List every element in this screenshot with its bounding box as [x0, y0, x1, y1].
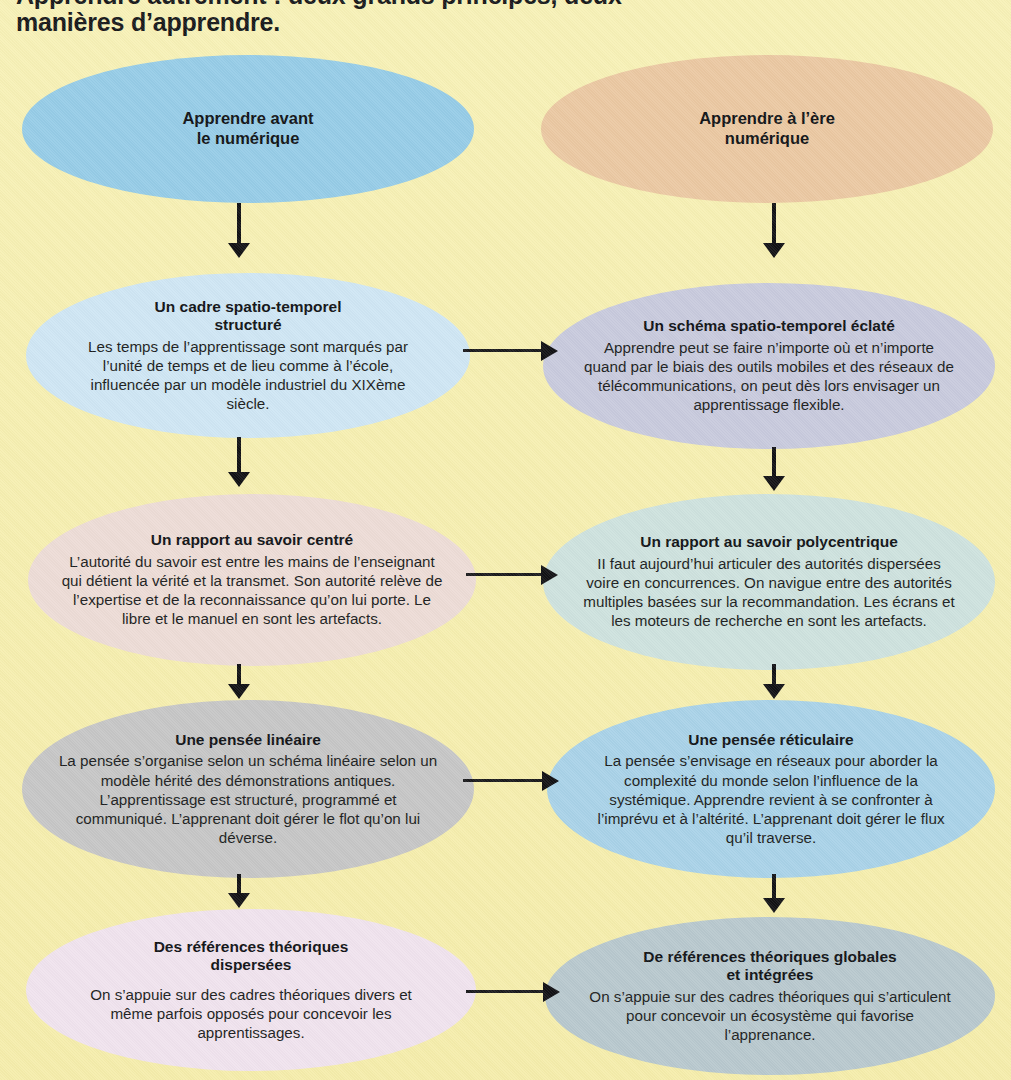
node-right-4-title-line2: et intégrées	[643, 966, 896, 985]
connector-left-row2-to-row3-arrow	[228, 684, 250, 699]
connector-row4-horizontal-arrow	[543, 982, 560, 1002]
node-right-2-body: II faut aujourd’hui articuler des autori…	[579, 554, 959, 631]
node-left-header-title-line2: le numérique	[182, 129, 313, 149]
node-right-header[interactable]: Apprendre à l’ère numérique	[541, 55, 993, 203]
node-left-3-title-line1: Une pensée linéaire	[175, 731, 321, 750]
node-left-3[interactable]: Une pensée linéaire La pensée s’organise…	[22, 700, 474, 878]
node-left-header-title-line1: Apprendre avant	[182, 109, 313, 129]
node-right-1[interactable]: Un schéma spatio-temporel éclaté Apprend…	[543, 283, 995, 449]
connector-left-row3-to-row4-arrow	[228, 893, 250, 908]
node-right-4-title-line1: De références théoriques globales	[643, 948, 896, 967]
node-right-header-title-line1: Apprendre à l’ère	[699, 109, 835, 129]
node-left-1[interactable]: Un cadre spatio-temporel structuré Les t…	[26, 273, 470, 438]
node-left-1-title-line2: structuré	[155, 316, 342, 335]
page-heading: Apprendre autrement : deux grands princi…	[0, 0, 1011, 46]
node-left-2[interactable]: Un rapport au savoir centré L’autorité d…	[28, 494, 476, 666]
connector-row3-horizontal-arrow	[542, 771, 559, 791]
node-right-2[interactable]: Un rapport au savoir polycentrique II fa…	[543, 494, 995, 670]
connector-left-row1-to-row2-arrow	[228, 472, 250, 487]
node-left-1-body: Les temps de l’apprentissage sont marqué…	[68, 337, 428, 414]
heading-line-visible: manières d’apprendre.	[16, 8, 280, 37]
node-left-4[interactable]: Des références théoriques dispersées On …	[26, 909, 476, 1071]
connector-row2-horizontal-line	[466, 573, 544, 576]
connector-row4-horizontal-line	[466, 990, 546, 993]
node-right-3-body: La pensée s’envisage en réseaux pour abo…	[593, 751, 949, 847]
connector-right-row3-to-row4-arrow	[763, 898, 785, 913]
connector-row3-horizontal-line	[463, 779, 545, 782]
node-left-4-body: On s’appuie sur des cadres théoriques di…	[68, 985, 434, 1042]
node-left-4-title-line2: dispersées	[154, 956, 349, 975]
node-right-4-body: On s’appuie sur des cadres théoriques qu…	[578, 987, 962, 1044]
node-left-1-title-line1: Un cadre spatio-temporel	[155, 298, 342, 317]
node-left-2-body: L’autorité du savoir est entre les mains…	[53, 552, 451, 629]
connector-right-header-to-row1-arrow	[763, 243, 785, 258]
connector-row2-horizontal-arrow	[541, 565, 558, 585]
node-left-4-title-line1: Des références théoriques	[154, 938, 349, 957]
connector-right-row2-to-row3-arrow	[763, 684, 785, 699]
node-right-3[interactable]: Une pensée réticulaire La pensée s’envis…	[547, 700, 995, 878]
connector-left-header-to-row1-arrow	[228, 243, 250, 258]
node-left-3-body: La pensée s’organise selon un schéma lin…	[52, 751, 444, 847]
node-right-2-title-line1: Un rapport au savoir polycentrique	[640, 533, 898, 552]
node-right-1-title-line1: Un schéma spatio-temporel éclaté	[643, 317, 895, 336]
node-right-3-title-line1: Une pensée réticulaire	[688, 731, 853, 750]
node-right-header-title-line2: numérique	[699, 129, 835, 149]
connector-right-row1-to-row2-arrow	[763, 476, 785, 491]
node-right-4[interactable]: De références théoriques globales et int…	[545, 917, 995, 1075]
node-left-2-title-line1: Un rapport au savoir centré	[151, 531, 353, 550]
node-left-header[interactable]: Apprendre avant le numérique	[22, 55, 474, 203]
connector-row1-horizontal-line	[463, 349, 544, 352]
connector-row1-horizontal-arrow	[541, 341, 558, 361]
node-right-1-body: Apprendre peut se faire n’importe où et …	[579, 338, 959, 415]
